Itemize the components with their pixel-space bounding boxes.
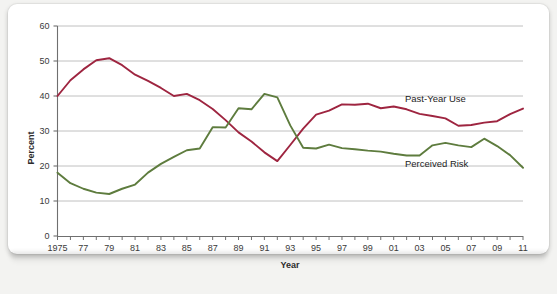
series-label-perceived-risk: Perceived Risk bbox=[405, 158, 469, 169]
y-tick-label: 40 bbox=[39, 91, 49, 101]
x-tick-label: 83 bbox=[156, 243, 166, 253]
x-tick-label: 01 bbox=[389, 243, 399, 253]
series-group bbox=[58, 58, 524, 194]
x-tick-label: 91 bbox=[259, 243, 269, 253]
x-tick-label: 79 bbox=[104, 243, 114, 253]
series-line-past-year-use bbox=[58, 58, 524, 161]
y-axis-group: 0102030405060 bbox=[39, 21, 57, 241]
x-tick-label: 05 bbox=[440, 243, 450, 253]
y-tick-label: 0 bbox=[44, 231, 49, 241]
x-tick-label: 93 bbox=[285, 243, 295, 253]
x-tick-label: 09 bbox=[492, 243, 502, 253]
screenshot-root: 0102030405060 19757779818385878991939597… bbox=[0, 0, 557, 294]
x-tick-label: 87 bbox=[208, 243, 218, 253]
y-axis-title: Percent bbox=[26, 131, 36, 164]
y-tick-label: 60 bbox=[39, 21, 49, 31]
gridlines-group bbox=[58, 26, 524, 201]
x-tick-label: 89 bbox=[234, 243, 244, 253]
x-tick-label: 95 bbox=[311, 243, 321, 253]
x-tick-label: 99 bbox=[363, 243, 373, 253]
x-tick-label: 85 bbox=[182, 243, 192, 253]
y-tick-label: 10 bbox=[39, 196, 49, 206]
series-label-past-year-use: Past-Year Use bbox=[405, 93, 466, 104]
x-tick-label: 03 bbox=[415, 243, 425, 253]
x-tick-label: 77 bbox=[78, 243, 88, 253]
y-tick-label: 30 bbox=[39, 126, 49, 136]
x-tick-label: 1975 bbox=[47, 243, 67, 253]
y-tick-labels: 0102030405060 bbox=[39, 21, 49, 241]
y-tick-marks bbox=[54, 26, 58, 236]
x-tick-label: 81 bbox=[130, 243, 140, 253]
y-tick-label: 50 bbox=[39, 56, 49, 66]
y-tick-label: 20 bbox=[39, 161, 49, 171]
x-tick-labels: 1975777981838587899193959799010305070911 bbox=[47, 243, 527, 253]
x-tick-label: 07 bbox=[466, 243, 476, 253]
line-chart-svg: 0102030405060 19757779818385878991939597… bbox=[0, 0, 557, 294]
x-axis-title: Year bbox=[280, 260, 300, 270]
x-tick-label: 97 bbox=[337, 243, 347, 253]
chart-figure: 0102030405060 19757779818385878991939597… bbox=[0, 0, 557, 294]
x-axis-group: 1975777981838587899193959799010305070911 bbox=[47, 236, 527, 253]
x-tick-label: 11 bbox=[518, 243, 527, 253]
